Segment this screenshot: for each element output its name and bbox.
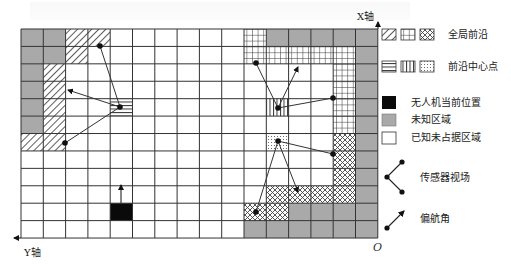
cell-frontier-cross — [333, 151, 355, 168]
legend — [382, 29, 434, 231]
cell-frontier-grid — [333, 46, 355, 63]
legend-swatch-hstripe — [382, 61, 396, 72]
legend-label-frontier-center: 前沿中心点 — [448, 61, 498, 73]
sensor-fov — [253, 60, 336, 111]
cell-unknown — [311, 221, 333, 238]
origin-label: O — [373, 241, 382, 254]
cell-unknown — [289, 29, 311, 46]
legend-label-global-frontier: 全局前沿 — [448, 29, 488, 41]
legend-label-drone-position: 无人机当前位置 — [411, 97, 481, 109]
cell-frontier-grid — [333, 99, 355, 116]
cell-unknown — [289, 221, 311, 238]
cell-frontier-cross — [333, 168, 355, 185]
cell-unknown — [43, 29, 65, 46]
legend-swatch-unknown — [382, 114, 396, 126]
cell-frontier-diag — [21, 134, 43, 151]
cell-unknown — [356, 29, 378, 46]
cell-frontier-grid — [333, 116, 355, 133]
cell-unknown — [266, 29, 288, 46]
cell-frontier-grid — [244, 29, 266, 46]
cell-unknown — [333, 203, 355, 220]
cell-unknown — [311, 29, 333, 46]
cell-frontier-cross — [311, 186, 333, 203]
cell-unknown — [333, 29, 355, 46]
cell-frontier-cross — [266, 186, 288, 203]
cell-unknown — [356, 81, 378, 98]
cell-frontier-cross — [266, 203, 288, 220]
cell-unknown — [356, 116, 378, 133]
cell-unknown — [356, 134, 378, 151]
legend-swatch-grid — [401, 29, 415, 40]
cell-frontier-diag — [43, 116, 65, 133]
y-axis-label: Y轴 — [24, 244, 41, 259]
legend-swatch-known — [382, 132, 396, 144]
cell-frontier-cross — [289, 186, 311, 203]
cell-unknown — [356, 168, 378, 185]
cell-unknown — [266, 221, 288, 238]
cell-unknown — [356, 46, 378, 63]
cell-frontier-cross — [333, 134, 355, 151]
legend-label-unknown-area: 未知区域 — [411, 114, 451, 126]
legend-swatch-vstripe — [401, 61, 415, 72]
cell-frontier-grid — [311, 46, 333, 63]
cell-unknown — [21, 81, 43, 98]
cell-unknown — [21, 64, 43, 81]
cell-unknown — [356, 203, 378, 220]
cell-drone — [110, 203, 132, 220]
legend-label-known-unoccupied: 已知未占据区域 — [411, 132, 481, 144]
cell-unknown — [21, 99, 43, 116]
cell-unknown — [311, 203, 333, 220]
cell-frontier-grid — [266, 46, 288, 63]
legend-swatch-drone — [382, 96, 396, 109]
legend-label-yaw-angle: 偏航角 — [420, 213, 450, 225]
cell-unknown — [21, 29, 43, 46]
cell-unknown — [356, 99, 378, 116]
legend-swatch-dots — [420, 61, 434, 72]
cell-unknown — [21, 46, 43, 63]
legend-label-sensor-fov: 传感器视场 — [420, 172, 470, 184]
cell-frontier-diag — [43, 64, 65, 81]
cell-unknown — [289, 203, 311, 220]
cell-frontier-diag — [66, 46, 88, 63]
cell-unknown — [333, 221, 355, 238]
legend-swatch-diag — [382, 29, 396, 40]
legend-yaw-icon — [384, 211, 404, 231]
cell-frontier-grid — [333, 64, 355, 81]
legend-swatch-cross — [420, 29, 434, 40]
cell-unknown — [356, 64, 378, 81]
cell-frontier-grid — [333, 81, 355, 98]
cell-frontier-diag — [43, 134, 65, 151]
cell-frontier-diag — [43, 99, 65, 116]
x-axis-label: X轴 — [357, 8, 374, 23]
cell-frontier-cross — [333, 186, 355, 203]
cell-unknown — [244, 221, 266, 238]
cell-unknown — [356, 186, 378, 203]
cell-unknown — [356, 221, 378, 238]
cell-frontier-grid — [289, 46, 311, 63]
cell-unknown — [43, 46, 65, 63]
cell-unknown — [356, 151, 378, 168]
cell-frontier-diag — [43, 81, 65, 98]
legend-fov-icon — [384, 159, 404, 194]
cell-unknown — [21, 116, 43, 133]
cell-frontier-diag — [66, 29, 88, 46]
